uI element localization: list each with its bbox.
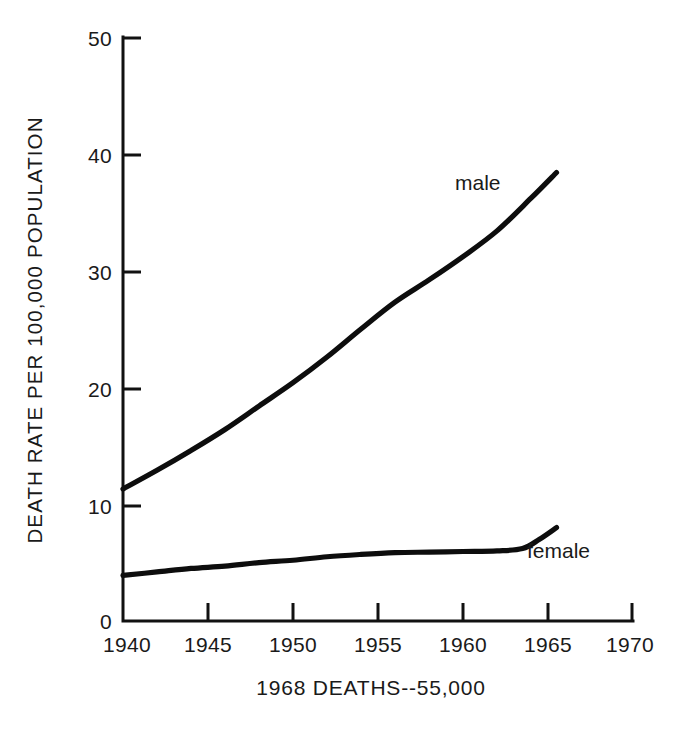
series-label-female: female	[527, 539, 590, 562]
y-tick-label-20: 20	[88, 378, 112, 401]
x-tick-label-1970: 1970	[606, 633, 654, 656]
line-chart-canvas: 50 40 30 20 10 0 1940 1945 1950 1955 196…	[0, 0, 687, 729]
series-line-female	[123, 528, 557, 576]
x-tick-label-1945: 1945	[184, 633, 232, 656]
x-tick-label-1960: 1960	[439, 633, 487, 656]
y-axis-title: DEATH RATE PER 100,000 POPULATION	[23, 116, 46, 543]
axis-spines	[123, 37, 633, 621]
x-tick-label-1940: 1940	[103, 633, 151, 656]
y-tick-label-30: 30	[88, 261, 112, 284]
series-line-male	[123, 172, 557, 489]
chart-figure: 50 40 30 20 10 0 1940 1945 1950 1955 196…	[0, 0, 687, 729]
chart-caption: 1968 DEATHS--55,000	[256, 676, 486, 699]
y-tick-label-50: 50	[88, 27, 112, 50]
y-tick-label-40: 40	[88, 144, 112, 167]
x-tick-label-1955: 1955	[354, 633, 402, 656]
x-tick-label-1950: 1950	[269, 633, 317, 656]
series-label-male: male	[455, 171, 501, 194]
y-tick-label-10: 10	[88, 495, 112, 518]
y-tick-label-0: 0	[100, 610, 112, 633]
x-tick-label-1965: 1965	[524, 633, 572, 656]
